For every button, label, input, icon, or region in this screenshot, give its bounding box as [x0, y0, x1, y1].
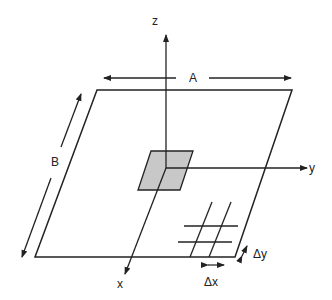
- dimension-b-arrow-down: [22, 178, 51, 257]
- delta-x-label: Δx: [204, 275, 218, 289]
- plate-diagram: z y x A B Δx Δy: [0, 0, 332, 300]
- x-axis-label: x: [117, 277, 123, 291]
- z-axis-label: z: [152, 14, 158, 28]
- dimension-b-label: B: [51, 155, 59, 169]
- dimension-a-label: A: [189, 71, 197, 85]
- mesh-grid: [178, 202, 238, 257]
- y-axis-label: y: [309, 161, 315, 175]
- delta-y-label: Δy: [253, 247, 267, 261]
- delta-y-arrow: [242, 246, 247, 256]
